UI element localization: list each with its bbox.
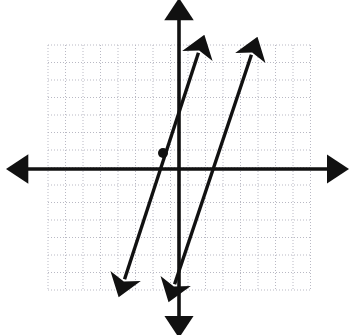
coordinate-plane-svg bbox=[0, 0, 352, 335]
plotted-point[interactable] bbox=[158, 148, 168, 158]
graph-figure: Two parallel lines on a coordinate plane bbox=[0, 0, 352, 335]
